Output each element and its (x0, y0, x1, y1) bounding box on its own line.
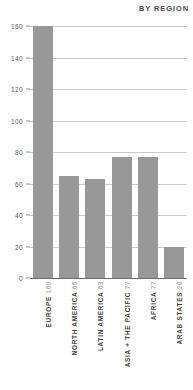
bar-series (30, 26, 187, 278)
bar (59, 176, 79, 278)
x-axis-label-text: AFRICA (150, 289, 157, 320)
plot-area (30, 26, 187, 278)
x-axis-label-text: ARAB STATES (176, 289, 183, 344)
x-axis-label-value: 77 (124, 281, 131, 289)
x-axis-label: NORTH AMERICA 65 (72, 281, 78, 355)
y-axis: 020406080100120140160 (0, 26, 30, 278)
x-axis-label: AFRICA 77 (151, 281, 157, 320)
axis-baseline (30, 278, 187, 279)
x-axis-label: ARAB STATES 20 (177, 281, 183, 345)
bar (112, 157, 132, 278)
y-axis-tick-label: 160 (11, 23, 23, 30)
y-axis-tick-label: 140 (11, 54, 23, 61)
chart-title: BY REGION (139, 4, 189, 13)
x-axis-label-text: LATIN AMERICA (97, 289, 104, 351)
x-axis-label-value: 160 (45, 281, 52, 293)
y-axis-tick-label: 100 (11, 117, 23, 124)
x-axis-label-text: NORTH AMERICA (71, 289, 78, 355)
bar (164, 247, 184, 279)
x-axis-label-value: 65 (71, 281, 78, 289)
y-axis-tick-label: 120 (11, 86, 23, 93)
x-axis-label-value: 63 (97, 281, 104, 289)
y-axis-tick-label: 40 (15, 212, 23, 219)
x-axis-label: LATIN AMERICA 63 (98, 281, 104, 351)
x-axis-label-value: 20 (176, 281, 183, 289)
bar (85, 179, 105, 278)
x-axis-label-text: EUROPE (45, 293, 52, 327)
y-axis-tick-label: 80 (15, 149, 23, 156)
bar-chart: BY REGION 020406080100120140160 EUROPE 1… (0, 0, 193, 390)
bar (33, 26, 53, 278)
x-axis-labels: EUROPE 160NORTH AMERICA 65LATIN AMERICA … (30, 281, 187, 387)
bar (138, 157, 158, 278)
x-axis-label: EUROPE 160 (46, 281, 52, 327)
x-axis-label: ASIA + THE PACIFIC 77 (125, 281, 131, 367)
y-axis-tick-label: 60 (15, 180, 23, 187)
y-axis-tick-label: 0 (19, 275, 23, 282)
x-axis-label-text: ASIA + THE PACIFIC (124, 289, 131, 367)
x-axis-label-value: 77 (150, 281, 157, 289)
y-axis-tick-label: 20 (15, 243, 23, 250)
